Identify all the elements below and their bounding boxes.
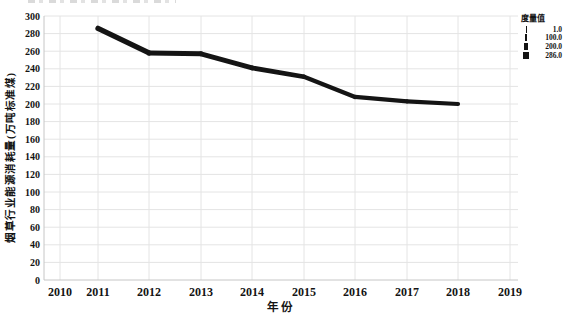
- legend-entry: 200.0: [521, 42, 562, 51]
- y-tick-label: 120: [25, 169, 40, 180]
- legend-entry: 1.0: [521, 25, 562, 34]
- y-tick-label: 160: [25, 134, 40, 145]
- y-tick-label: 0: [35, 275, 40, 286]
- y-tick-label: 260: [25, 46, 40, 57]
- line-weight-swatch-wrap: [521, 34, 531, 41]
- line-weight-swatch: [525, 34, 528, 41]
- data-line-segment: [149, 53, 201, 54]
- x-axis-label: 年份: [267, 298, 295, 314]
- x-tick-label: 2013: [189, 285, 213, 299]
- legend-entry: 100.0: [521, 34, 562, 43]
- y-tick-label: 220: [25, 81, 40, 92]
- y-tick-label: 280: [25, 28, 40, 39]
- x-tick-label: 2018: [446, 285, 470, 299]
- y-axis-label: 烟草行业能源消耗量(万吨标准煤): [2, 72, 17, 243]
- x-tick-label: 2016: [343, 285, 367, 299]
- line-weight-swatch-wrap: [521, 52, 531, 59]
- data-line-segment: [355, 97, 407, 101]
- legend-entry: 286.0: [521, 51, 562, 60]
- chart-figure: 0204060801001201401601802002202402602803…: [0, 0, 564, 331]
- data-line-segment: [98, 28, 149, 53]
- x-tick-label: 2019: [498, 285, 522, 299]
- y-tick-label: 80: [30, 204, 40, 215]
- y-tick-label: 100: [25, 187, 40, 198]
- data-line-segment: [201, 54, 252, 68]
- y-tick-label: 20: [30, 257, 40, 268]
- x-tick-label: 2014: [240, 285, 264, 299]
- y-tick-label: 180: [25, 116, 40, 127]
- x-tick-label: 2015: [292, 285, 316, 299]
- y-tick-label: 240: [25, 63, 40, 74]
- y-tick-label: 300: [25, 11, 40, 22]
- legend: 度量值 1.0100.0200.0286.0: [521, 12, 562, 59]
- y-tick-label: 40: [30, 239, 40, 250]
- legend-title: 度量值: [521, 12, 562, 23]
- line-chart-canvas: 0204060801001201401601802002202402602803…: [0, 0, 564, 331]
- x-tick-label: 2010: [48, 285, 72, 299]
- y-tick-label: 60: [30, 222, 40, 233]
- x-tick-label: 2011: [86, 285, 109, 299]
- line-weight-swatch: [524, 43, 528, 50]
- line-weight-swatch-wrap: [521, 26, 531, 33]
- data-line-segment: [407, 101, 458, 104]
- legend-items: 1.0100.0200.0286.0: [521, 25, 562, 59]
- legend-entry-label: 286.0: [531, 51, 562, 60]
- y-tick-label: 140: [25, 151, 40, 162]
- line-weight-swatch-wrap: [521, 43, 531, 50]
- x-tick-label: 2012: [137, 285, 161, 299]
- line-weight-swatch: [526, 26, 527, 33]
- y-tick-label: 200: [25, 99, 40, 110]
- x-tick-label: 2017: [395, 285, 419, 299]
- line-weight-swatch: [523, 52, 529, 59]
